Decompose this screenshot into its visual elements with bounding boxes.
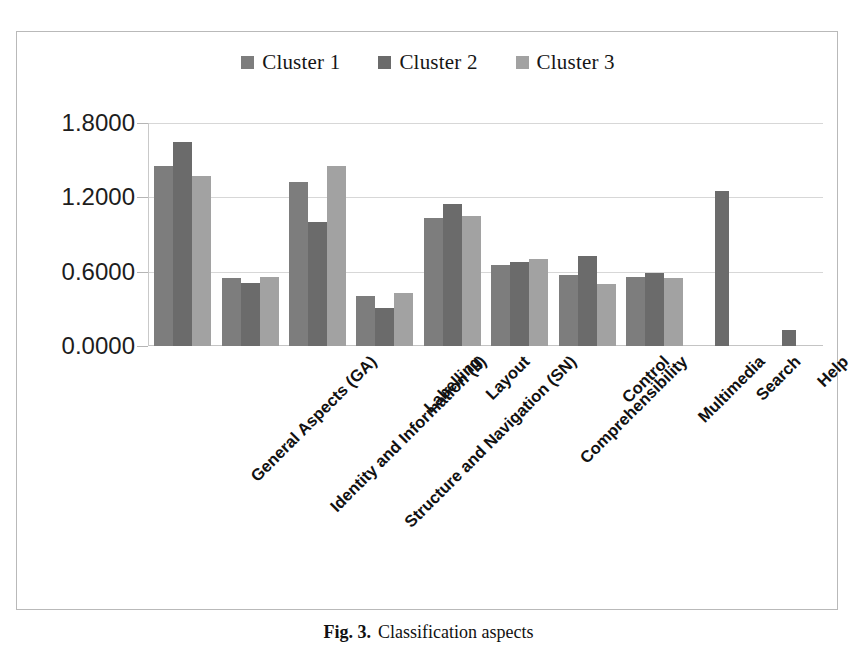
- x-axis-label: Help: [814, 352, 853, 391]
- y-tick-label: 0.6000: [62, 258, 135, 286]
- legend-item-cluster-2: Cluster 2: [378, 50, 477, 75]
- bar-c3[interactable]: [327, 166, 346, 346]
- y-tick-label: 1.8000: [62, 109, 135, 137]
- bar-c3[interactable]: [394, 293, 413, 346]
- bar-c2[interactable]: [782, 330, 796, 346]
- figure-caption-text: Classification aspects: [378, 622, 533, 642]
- bar-group: [553, 123, 620, 346]
- bar-group: [486, 123, 553, 346]
- bar-c1[interactable]: [626, 277, 645, 346]
- bar-group: [688, 123, 755, 346]
- bar-c2[interactable]: [715, 191, 729, 346]
- bar-c3[interactable]: [260, 277, 279, 346]
- figure-caption: Fig. 3.Classification aspects: [0, 622, 857, 643]
- legend-item-cluster-1: Cluster 1: [241, 50, 340, 75]
- bar-group: [216, 123, 283, 346]
- chart-legend: Cluster 1 Cluster 2 Cluster 3: [17, 50, 839, 75]
- legend-label: Cluster 2: [399, 50, 477, 75]
- bar-c1[interactable]: [356, 296, 375, 346]
- bar-group: [419, 123, 486, 346]
- x-axis-label: Labelling: [420, 352, 485, 417]
- bar-group: [756, 123, 823, 346]
- bar-c1[interactable]: [154, 166, 173, 346]
- bar-c1[interactable]: [289, 182, 308, 346]
- bar-c3[interactable]: [597, 284, 616, 346]
- x-axis-label: General Aspects (GA): [246, 352, 380, 486]
- bar-c2[interactable]: [375, 308, 394, 346]
- bar-c1[interactable]: [559, 275, 578, 346]
- x-axis-label: Structure and Navigation (SN): [400, 352, 579, 531]
- bar-c2[interactable]: [241, 283, 260, 346]
- plot-area: [149, 123, 823, 346]
- bar-c2[interactable]: [510, 262, 529, 346]
- bar-group: [351, 123, 418, 346]
- y-tick-mark: [137, 346, 148, 347]
- bar-group: [284, 123, 351, 346]
- bar-c1[interactable]: [424, 218, 443, 346]
- y-tick-label: 1.2000: [62, 183, 135, 211]
- bar-c1[interactable]: [491, 265, 510, 346]
- bar-c3[interactable]: [462, 216, 481, 346]
- bar-c3[interactable]: [529, 259, 548, 346]
- x-axis-label: Comprehensibility: [576, 352, 691, 467]
- y-axis: 1.8000 1.2000 0.6000 0.0000: [17, 123, 149, 346]
- figure-number: Fig. 3.: [324, 622, 372, 642]
- y-tick-mark: [137, 272, 148, 273]
- bar-c3[interactable]: [192, 176, 211, 346]
- bar-group: [621, 123, 688, 346]
- bar-group: [149, 123, 216, 346]
- bar-c2[interactable]: [578, 256, 597, 346]
- y-tick-mark: [137, 197, 148, 198]
- bar-c2[interactable]: [173, 142, 192, 346]
- legend-swatch-icon: [378, 56, 391, 69]
- legend-label: Cluster 3: [537, 50, 615, 75]
- bar-c3[interactable]: [664, 278, 683, 346]
- legend-swatch-icon: [241, 56, 254, 69]
- bar-c1[interactable]: [222, 278, 241, 346]
- legend-item-cluster-3: Cluster 3: [516, 50, 615, 75]
- legend-swatch-icon: [516, 56, 529, 69]
- bar-c2[interactable]: [443, 204, 462, 346]
- figure-frame: Cluster 1 Cluster 2 Cluster 3 1.8000 1.2…: [16, 31, 838, 610]
- y-tick-label: 0.0000: [62, 332, 135, 360]
- bar-c2[interactable]: [645, 273, 664, 346]
- y-tick-mark: [137, 123, 148, 124]
- legend-label: Cluster 1: [262, 50, 340, 75]
- bar-c2[interactable]: [308, 222, 327, 346]
